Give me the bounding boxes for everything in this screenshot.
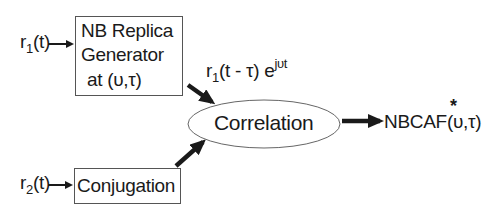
output-star: * bbox=[450, 95, 457, 117]
input-r1-suffix: (t) bbox=[33, 31, 50, 52]
replica-generator-line1: NB Replica bbox=[81, 19, 173, 43]
replica-generator-block: NB Replica Generator at (υ,τ) bbox=[75, 16, 183, 96]
conjugation-block: Conjugation bbox=[74, 168, 181, 204]
replica-generator-line2: Generator bbox=[81, 43, 164, 67]
replica-signal-label: r1(t - τ) ejυt bbox=[206, 60, 287, 84]
output-prefix: NBCAF bbox=[384, 111, 447, 132]
input-r2-label: r2(t) bbox=[20, 172, 50, 196]
signal-exponent: jυt bbox=[274, 56, 287, 71]
replica-to-correlation-arrow bbox=[188, 85, 212, 102]
input-r1-label: r1(t) bbox=[20, 31, 50, 55]
signal-middle: (t - τ) e bbox=[219, 60, 274, 81]
conjugation-to-correlation-arrow bbox=[176, 142, 203, 166]
input-r1-subscript: 1 bbox=[26, 41, 33, 56]
input-r2-suffix: (t) bbox=[33, 172, 50, 193]
signal-subscript: 1 bbox=[212, 70, 219, 85]
output-label: NBCAF*(υ,τ) bbox=[384, 111, 481, 133]
replica-generator-line3: at (υ,τ) bbox=[87, 68, 142, 92]
input-r2-subscript: 2 bbox=[26, 182, 33, 197]
conjugation-label: Conjugation bbox=[77, 174, 175, 198]
correlation-label: Correlation bbox=[214, 112, 313, 134]
